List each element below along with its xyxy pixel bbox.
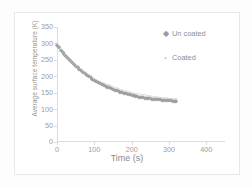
chart-plot-frame: Average surface temperature (K) Time (s)… — [14, 12, 240, 175]
legend-label: Coated — [172, 53, 196, 62]
x-tick-label-300: 300 — [163, 146, 175, 153]
y-tick-label-200: 200 — [41, 73, 53, 80]
x-tick-label-400: 400 — [200, 146, 212, 153]
diamond-marker-icon: ◆ — [161, 29, 170, 38]
chart-figure: Average surface temperature (K) Time (s)… — [0, 0, 252, 189]
legend-entry-un-coated[interactable]: ◆Un coated — [161, 29, 206, 38]
y-axis-title: Average surface temperature (K) — [31, 4, 38, 134]
legend-label: Un coated — [172, 29, 206, 38]
cross-marker-icon: × — [161, 55, 170, 61]
x-tick-label-100: 100 — [88, 146, 100, 153]
x-axis-title: Time (s) — [15, 153, 239, 163]
x-tick-label-0: 0 — [55, 146, 59, 153]
data-point — [175, 98, 178, 101]
y-tick-label-250: 250 — [41, 56, 53, 63]
y-tick-label-150: 150 — [41, 89, 53, 96]
legend-entry-coated[interactable]: ×Coated — [161, 53, 206, 62]
y-tick-label-0: 0 — [49, 138, 53, 145]
chart-legend: ◆Un coated×Coated — [161, 29, 206, 77]
y-tick-label-350: 350 — [41, 23, 53, 30]
y-tick-label-50: 50 — [45, 122, 53, 129]
y-tick-label-100: 100 — [41, 106, 53, 113]
x-tick-label-200: 200 — [126, 146, 138, 153]
y-tick-label-300: 300 — [41, 40, 53, 47]
